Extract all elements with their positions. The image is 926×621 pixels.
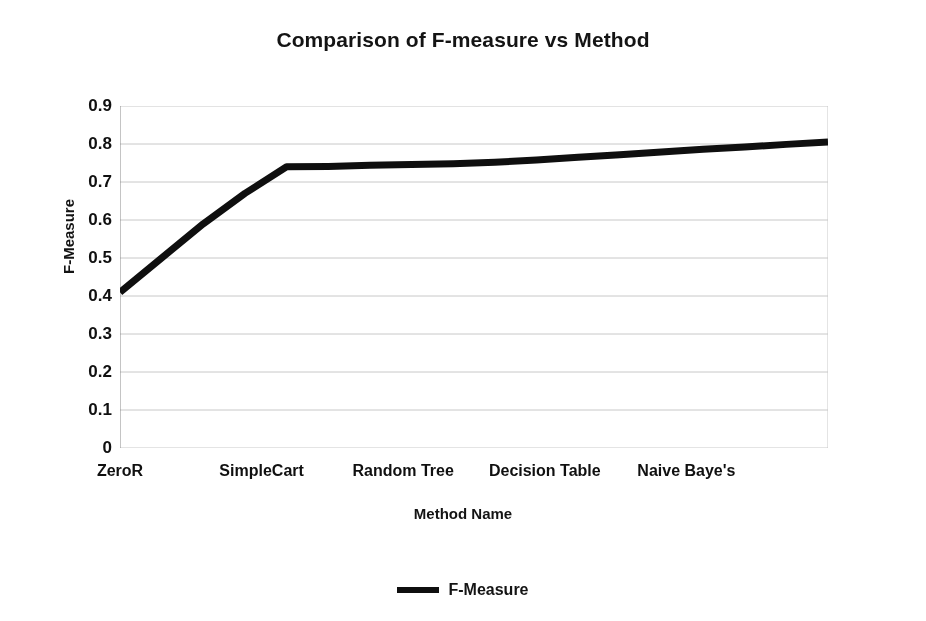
x-axis-tick-label: Naive Baye's [601, 462, 771, 480]
y-axis-tick-label: 0.6 [68, 211, 112, 228]
y-axis-tick-label: 0.4 [68, 287, 112, 304]
chart-legend: F-Measure [0, 582, 926, 598]
legend-label: F-Measure [448, 582, 528, 598]
plot-area [120, 106, 828, 448]
y-axis-tick-label: 0.3 [68, 325, 112, 342]
axis-spines [120, 106, 828, 448]
y-axis-tick-labels: 00.10.20.30.40.50.60.70.80.9 [62, 106, 112, 448]
y-axis-tick-label: 0.5 [68, 249, 112, 266]
chart-figure: Comparison of F-measure vs Method F-Meas… [0, 0, 926, 621]
x-axis-tick-labels: ZeroRSimpleCartRandom TreeDecision Table… [0, 462, 926, 488]
x-axis-title: Method Name [0, 505, 926, 522]
gridlines [120, 106, 828, 448]
chart-title: Comparison of F-measure vs Method [0, 28, 926, 52]
plot-svg [120, 106, 828, 448]
y-axis-tick-label: 0.8 [68, 135, 112, 152]
y-axis-tick-label: 0.9 [68, 97, 112, 114]
y-axis-tick-label: 0.7 [68, 173, 112, 190]
series-line-f-measure [120, 142, 828, 292]
data-series-f-measure [120, 142, 828, 292]
y-axis-tick-label: 0.2 [68, 363, 112, 380]
y-axis-tick-label: 0 [68, 439, 112, 456]
legend-line-swatch-icon [397, 587, 439, 593]
y-axis-tick-label: 0.1 [68, 401, 112, 418]
